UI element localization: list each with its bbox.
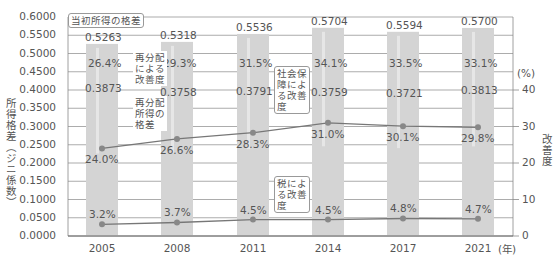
line-marker [99,145,105,151]
initial-gap-value: 0.5318 [160,30,197,41]
initial-gap-value: 0.5594 [386,20,423,31]
redistribution-improvement-value: 34.1% [314,58,347,69]
tax-improvement-value: 3.2% [89,209,116,220]
right-axis-tick: 10 [522,194,535,205]
right-axis-unit: (%) [517,68,535,79]
left-axis-tick: 0.5500 [0,29,56,40]
line-marker [400,123,406,129]
bar-2005 [86,44,118,236]
left-axis-tick: 0.4000 [0,84,56,95]
right-axis-title-text: 改善度 [540,134,552,167]
line-marker [475,216,481,222]
initial-gap-value: 0.5704 [311,16,348,27]
redistribution-improvement-value: 33.5% [389,58,422,69]
right-axis-tick: 30 [522,121,535,132]
tax-improvement-value: 3.7% [164,207,191,218]
initial-gap-value: 0.5263 [85,32,122,43]
redistribution-improvement-value: 29.3% [163,58,196,69]
callout-initial-gap: 当初所得の格差 [68,13,144,28]
line-marker [325,120,331,126]
x-axis-tick: 2014 [308,243,348,254]
left-axis-tick: 0.6000 [0,11,56,22]
social-security-improvement-value: 31.0% [311,129,344,140]
redistribution-improvement-value: 31.5% [239,58,272,69]
right-axis-tick: 0 [522,230,529,241]
right-axis-title: 改善度 [540,134,552,169]
right-axis-tick: 20 [522,157,535,168]
line-marker [475,124,481,130]
line-marker [99,221,105,227]
line-marker [174,136,180,142]
redistributed-gap-value: 0.3721 [386,88,423,99]
line-marker [325,217,331,223]
left-axis-title-text: 所得格差（ジニ係数） [4,98,16,208]
redistribution-improvement-value: 33.1% [464,58,497,69]
redistribution-improvement-value: 26.4% [88,58,121,69]
right-axis-tick: 40 [522,84,535,95]
left-axis-tick: 0.4500 [0,66,56,77]
left-axis-tick: 0.0000 [0,230,56,241]
initial-gap-value: 0.5700 [461,16,498,27]
callout-social-security: 社会保 障によ る改善 度 [274,66,310,114]
x-axis-tick: 2011 [233,243,273,254]
line-2 [102,218,478,224]
line-marker [250,217,256,223]
initial-gap-value: 0.5536 [236,22,273,33]
x-axis-tick: 2005 [82,243,122,254]
redistributed-gap-value: 0.3873 [85,83,122,94]
x-axis-tick: 2017 [383,243,423,254]
social-security-improvement-value: 28.3% [236,139,269,150]
x-axis-tick: 2008 [157,243,197,254]
redistributed-gap-value: 0.3791 [236,86,273,97]
social-security-improvement-value: 29.8% [461,133,494,144]
line-marker [400,215,406,221]
callout-redistributed-gap: 再分配 所得の 格差 [133,96,167,131]
x-axis-unit: (年) [498,244,516,255]
social-security-improvement-value: 26.6% [160,145,193,156]
line-marker [250,130,256,136]
callout-redistribution-improvement: 再分配 による 改善度 [133,51,167,86]
redistributed-gap-value: 0.3813 [461,85,498,96]
tax-improvement-value: 4.8% [390,203,417,214]
social-security-improvement-value: 24.0% [85,154,118,165]
left-axis-tick: 0.5000 [0,48,56,59]
left-axis-tick: 0.0500 [0,212,56,223]
left-axis-title: 所得格差（ジニ係数） [4,98,16,210]
callout-tax: 税によ る改善 度 [274,176,310,213]
tax-improvement-value: 4.5% [240,205,267,216]
x-axis-tick: 2021 [458,243,498,254]
line-marker [174,219,180,225]
social-security-improvement-value: 30.1% [386,132,419,143]
tax-improvement-value: 4.7% [465,204,492,215]
tax-improvement-value: 4.5% [315,205,342,216]
redistributed-gap-value: 0.3759 [311,87,348,98]
